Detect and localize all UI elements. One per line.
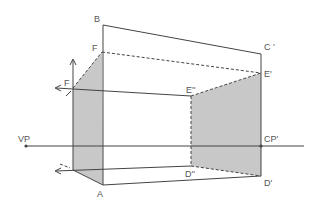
right-shaded-face [191, 73, 261, 176]
tick-mark [66, 91, 71, 96]
label-f-left: F [64, 78, 70, 88]
cp-point [259, 144, 262, 147]
edge-a-d [103, 176, 261, 185]
tick-lower [60, 164, 70, 168]
label-e-prime: E' [264, 69, 272, 79]
left-shaded-face [73, 52, 103, 185]
label-d-double: D'' [185, 169, 195, 179]
label-e-double: E'' [186, 85, 196, 95]
label-f-top: F [92, 43, 98, 53]
edge-b-c [103, 25, 261, 54]
perspective-diagram: B F F C ' E' E'' VP CP' D'' D' A [0, 0, 322, 211]
label-a: A [97, 189, 103, 199]
label-b: B [94, 14, 100, 24]
label-d-prime: D' [264, 178, 272, 188]
label-cp-prime: CP' [264, 134, 279, 144]
label-c-prime: C ' [264, 42, 275, 52]
edge-f-e-dashed [102, 52, 261, 73]
label-vp: VP [18, 134, 30, 144]
vp-point [24, 144, 27, 147]
